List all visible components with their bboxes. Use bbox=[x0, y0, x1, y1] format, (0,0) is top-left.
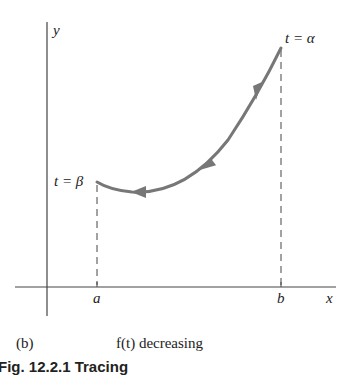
curve-start-label: t = α bbox=[285, 30, 315, 47]
subcaption: f(t) decreasing bbox=[116, 335, 203, 352]
figure-caption: Fig. 12.2.1 Tracing bbox=[0, 358, 128, 375]
curve-end-label: t = β bbox=[54, 173, 83, 190]
y-axis-label: y bbox=[53, 22, 60, 39]
direction-arrow-icon bbox=[197, 157, 217, 173]
x-axis-label: x bbox=[326, 290, 333, 307]
parametric-curve bbox=[97, 48, 281, 192]
tick-label-b: b bbox=[277, 290, 285, 307]
tick-label-a: a bbox=[93, 290, 101, 307]
direction-arrow-icon bbox=[131, 186, 146, 198]
panel-label: (b) bbox=[16, 335, 34, 352]
